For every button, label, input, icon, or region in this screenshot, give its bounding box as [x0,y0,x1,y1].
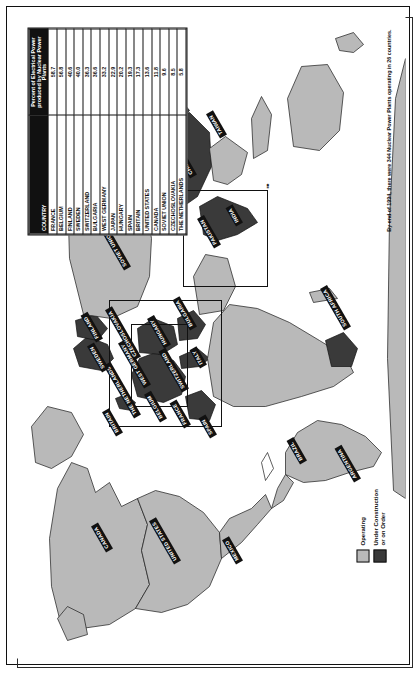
table-body: FRANCE58.7BELGIUM56.8FINLAND40.6SWEDEN40… [48,29,186,234]
table-row: SOVIET UNION9.6 [160,29,169,234]
table-cell-percent: 40.0 [74,29,83,115]
table-row: BULGARIA36.6 [91,29,100,234]
table-header-percent: Percent of Electrical Power produced by … [29,29,48,115]
table-cell-percent: 8.5 [168,29,177,115]
landmass-new-zealand [335,33,363,53]
table-cell-percent: 36.6 [91,29,100,115]
legend-swatch-operating [356,550,369,563]
table-cell-percent: 5.8 [177,29,186,115]
table-row: SPAIN19.3 [125,29,134,234]
table-cell-country: FINLAND [65,115,74,234]
table-cell-country: SOVIET UNION [160,115,169,234]
table-cell-percent: 56.8 [57,29,66,115]
table-header-row: COUNTRY Percent of Electrical Power prod… [29,29,48,234]
table-cell-percent: 11.8 [151,29,160,115]
table-row: WEST GERMANY33.2 [99,29,108,234]
landmass-central-america [271,475,293,509]
table-cell-country: SPAIN [125,115,134,234]
map-legend: OperatingUnder Construction or on Order [356,489,389,562]
legend-item-label: Under Construction or on Order [372,489,386,545]
footnote-text: By end of 1994, there were 344 Nuclear P… [385,30,391,232]
table-cell-country: JAPAN [108,115,117,234]
table-row: SWEDEN40.0 [74,29,83,234]
table-cell-percent: 40.6 [65,29,74,115]
landmass-australia [287,65,343,151]
landmass-iberia [185,391,215,421]
table-cell-country: WEST GERMANY [99,115,108,234]
table-cell-percent: 17.3 [134,29,143,115]
rotated-poster-canvas: CANADAUNITED STATESMEXICOBRAZILARGENTINA… [13,14,405,659]
table-row: UNITED STATES13.6 [142,29,151,234]
table-cell-percent: 36.3 [82,29,91,115]
table-cell-country: FRANCE [48,115,57,234]
nuclear-percent-table: COUNTRY Percent of Electrical Power prod… [27,28,187,236]
table-cell-country: BULGARIA [91,115,100,234]
table-cell-country: SWITZERLAND [82,115,91,234]
table-cell-percent: 19.3 [125,29,134,115]
table-cell-country: THE NETHERLANDS [177,115,186,234]
landmass-indonesia [251,97,271,159]
table-cell-percent: 58.7 [48,29,57,115]
table-row: FINLAND40.6 [65,29,74,234]
landmass-caribbean [261,453,273,481]
table-row: JAPAN22.9 [108,29,117,234]
table-cell-country: HUNGARY [117,115,126,234]
table-row: CANADA11.8 [151,29,160,234]
table-row: SWITZERLAND36.3 [82,29,91,234]
table-cell-country: SWEDEN [74,115,83,234]
poster-page: CANADAUNITED STATESMEXICOBRAZILARGENTINA… [0,0,418,673]
table-header-country: COUNTRY [29,115,48,234]
landmass-usa [135,491,221,613]
table-cell-percent: 9.6 [160,29,169,115]
table-cell-country: UNITED STATES [142,115,151,234]
landmass-southeast-asia [209,137,247,185]
table-row: BELGIUM56.8 [57,29,66,234]
table-row: HUNGARY20.2 [117,29,126,234]
table-row: BRITAIN17.3 [134,29,143,234]
table-cell-percent: 22.9 [108,29,117,115]
legend-item: Operating [356,489,369,562]
table-row: CZECHOSLOVAKIA8.5 [168,29,177,234]
table-cell-country: BELGIUM [57,115,66,234]
table-cell-country: CZECHOSLOVAKIA [168,115,177,234]
table-row: FRANCE58.7 [48,29,57,234]
legend-swatch-under-construction [373,550,386,563]
table-cell-country: CANADA [151,115,160,234]
table-row: THE NETHERLANDS5.8 [177,29,186,234]
legend-item-label: Operating [359,517,366,545]
legend-item: Under Construction or on Order [372,489,386,562]
table-cell-percent: 33.2 [99,29,108,115]
table-cell-country: BRITAIN [134,115,143,234]
table-cell-percent: 20.2 [117,29,126,115]
landmass-canada [49,463,149,629]
table-cell-percent: 13.6 [142,29,151,115]
north-arrow-icon: ➠ [263,183,271,189]
landmass-greenland [31,407,83,469]
